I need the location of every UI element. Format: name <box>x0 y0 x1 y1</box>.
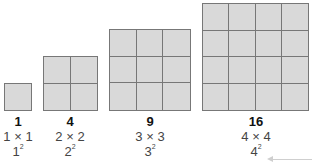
unit-cell <box>256 4 282 31</box>
unit-cell <box>203 4 229 31</box>
unit-cell <box>137 30 164 57</box>
pointer-arrow-line <box>272 159 312 160</box>
power-notation: 42 <box>216 144 296 159</box>
label-group-16: 16 4 × 4 42 <box>216 114 296 159</box>
label-group-9: 9 3 × 3 32 <box>110 114 190 159</box>
unit-cell <box>203 57 229 84</box>
unit-cell <box>44 84 71 111</box>
unit-cell <box>110 57 137 84</box>
unit-cell <box>229 84 255 111</box>
unit-cell <box>229 4 255 31</box>
power-notation: 32 <box>110 144 190 159</box>
unit-cell <box>203 84 229 111</box>
label-group-4: 4 2 × 2 22 <box>30 114 110 159</box>
unit-cell <box>282 4 308 31</box>
unit-cell <box>137 83 164 110</box>
unit-cell <box>5 84 31 110</box>
unit-cell <box>256 84 282 111</box>
power-notation: 22 <box>30 144 110 159</box>
unit-cell <box>163 30 190 57</box>
square-count: 9 <box>110 114 190 129</box>
unit-cell <box>71 57 98 84</box>
unit-cell <box>256 31 282 58</box>
square-grid-3x3 <box>109 29 191 111</box>
unit-cell <box>229 57 255 84</box>
unit-cell <box>44 57 71 84</box>
unit-cell <box>71 84 98 111</box>
unit-cell <box>163 83 190 110</box>
unit-cell <box>282 57 308 84</box>
multiplication-expression: 4 × 4 <box>216 129 296 144</box>
unit-cell <box>282 84 308 111</box>
unit-cell <box>137 57 164 84</box>
unit-cell <box>229 31 255 58</box>
square-count: 16 <box>216 114 296 129</box>
square-grid-4x4 <box>202 3 309 111</box>
unit-cell <box>256 57 282 84</box>
unit-cell <box>203 31 229 58</box>
square-count: 4 <box>30 114 110 129</box>
square-grid-2x2 <box>43 56 98 111</box>
unit-cell <box>110 83 137 110</box>
unit-cell <box>163 57 190 84</box>
unit-cell <box>110 30 137 57</box>
unit-cell <box>282 31 308 58</box>
multiplication-expression: 3 × 3 <box>110 129 190 144</box>
multiplication-expression: 2 × 2 <box>30 129 110 144</box>
square-grid-1x1 <box>4 83 32 111</box>
